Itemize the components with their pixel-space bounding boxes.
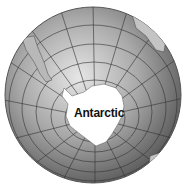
antarctic-globe-map: Antarctic: [0, 0, 188, 190]
globe-graphic: [0, 0, 188, 190]
antarctic-label: Antarctic: [74, 106, 124, 120]
